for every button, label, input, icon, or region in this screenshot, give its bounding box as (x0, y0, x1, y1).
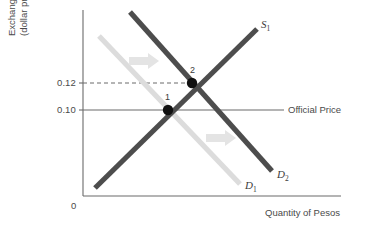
supply-curve-label: S1 (261, 19, 270, 33)
equilibrium-point-2-marker (187, 78, 197, 88)
supply-curve-s1 (95, 29, 257, 188)
official-price-label: Official Price (288, 105, 341, 115)
y-axis-title-line1: Exchange Rate (6, 0, 17, 36)
equilibrium-point-1-label: 1 (165, 93, 170, 102)
ytick-label-010: 0.10 (57, 105, 76, 115)
demand-curve-d1-label: D1 (245, 180, 257, 194)
origin-label: 0 (71, 201, 76, 211)
supply-demand-chart: 0.12 0.10 0 Quantity of Pesos Exchange R… (0, 0, 365, 228)
demand-curve-d2-label: D2 (277, 169, 289, 183)
ytick-label-012: 0.12 (57, 78, 76, 88)
demand-curve-d1-subscript: 1 (253, 185, 257, 194)
supply-curve-subscript: 1 (267, 24, 271, 33)
demand-curve-d1-letter: D (245, 179, 253, 191)
demand-curve-d2-letter: D (277, 168, 285, 180)
x-axis-title: Quantity of Pesos (265, 208, 340, 218)
y-axis-title: Exchange Rate (dollar price per peso) (6, 0, 28, 36)
equilibrium-point-2-label: 2 (190, 66, 195, 75)
demand-curve-d2-subscript: 2 (285, 174, 289, 183)
shift-arrow-upper-icon (129, 53, 159, 69)
equilibrium-point-1-marker (163, 105, 173, 115)
y-axis-title-line2: (dollar price per peso) (18, 0, 29, 36)
shift-arrow-lower-icon (206, 130, 236, 146)
